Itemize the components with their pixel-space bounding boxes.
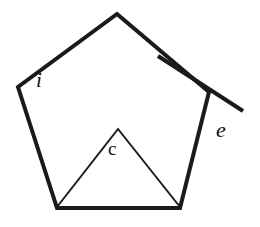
exterior-angle-label: e	[216, 119, 226, 141]
pentagon-diagram-canvas	[0, 0, 260, 227]
interior-angle-label: i	[36, 70, 42, 91]
central-angle-label: c	[108, 139, 116, 158]
diagram-background	[0, 0, 260, 227]
geometry-figure: i e c	[0, 0, 260, 227]
